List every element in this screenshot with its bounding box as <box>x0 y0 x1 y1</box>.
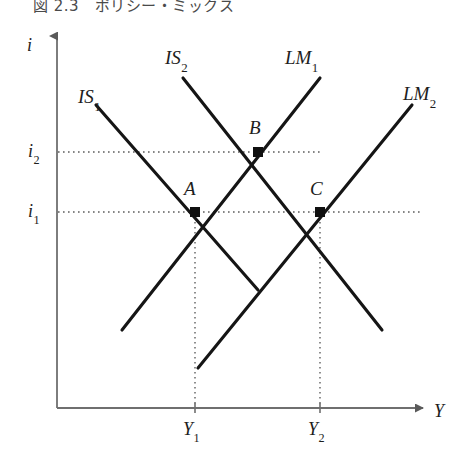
curve-label-lm1: LM1 <box>285 48 318 72</box>
curve-lm2-base: LM <box>403 83 429 104</box>
point-marker-c <box>315 207 325 217</box>
islm-plot <box>0 0 467 462</box>
curve-is2-sub: 2 <box>181 60 187 75</box>
x-axis-label: Y <box>434 402 444 420</box>
point-marker-b <box>253 147 263 157</box>
figure-container: 図 2.3 ポリシー・ミックス <box>0 0 467 462</box>
guide-lines <box>58 152 421 406</box>
x-tick-label-y2: Y2 <box>308 420 324 442</box>
x-tick-y2-base: Y <box>308 419 318 439</box>
y-tick-label-i2: i2 <box>28 142 39 164</box>
point-marker-a <box>190 207 200 217</box>
y-axis-label: i <box>27 36 32 54</box>
curve-is1-sub: 1 <box>94 99 100 114</box>
curve-lm1-sub: 1 <box>312 60 318 75</box>
x-tick-y2-sub: 2 <box>318 431 324 445</box>
curve-lm2-sub: 2 <box>430 96 436 111</box>
y-tick-i1-sub: 1 <box>33 213 39 227</box>
point-label-a: A <box>184 179 196 198</box>
x-tick-y1-sub: 1 <box>193 431 199 445</box>
curve-lm1 <box>122 78 320 330</box>
axis-lines <box>57 36 423 408</box>
curve-label-lm2: LM2 <box>403 84 436 108</box>
curve-is1-base: IS <box>78 86 94 107</box>
y-tick-label-i1: i1 <box>28 202 39 224</box>
curve-label-is2: IS2 <box>165 48 187 72</box>
point-label-c: C <box>310 179 323 198</box>
x-tick-y1-base: Y <box>183 419 193 439</box>
curve-label-is1: IS1 <box>78 87 100 111</box>
y-tick-i2-sub: 2 <box>33 153 39 167</box>
point-label-b: B <box>249 118 261 137</box>
curve-is2 <box>183 78 382 330</box>
curve-lm1-base: LM <box>285 47 311 68</box>
curve-is2-base: IS <box>165 47 181 68</box>
x-tick-label-y1: Y1 <box>183 420 199 442</box>
